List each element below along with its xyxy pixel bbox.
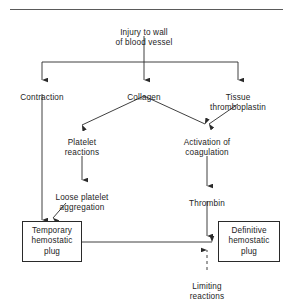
node-injury-label: Injury to wall of blood vessel (116, 28, 173, 47)
node-injury: Injury to wall of blood vessel (89, 18, 199, 48)
node-tissue-thromboplastin-label: Tissue thromboplastin (210, 93, 266, 112)
node-platelet-reactions: Platelet reactions (44, 128, 120, 158)
node-thrombin: Thrombin (169, 189, 245, 209)
node-limiting-reactions-label: Limiting reactions (190, 282, 225, 301)
node-activation-of-coagulation: Activation of coagulation (164, 128, 250, 158)
node-thrombin-label: Thrombin (189, 199, 225, 208)
node-activation-of-coagulation-label: Activation of coagulation (184, 138, 231, 157)
node-tissue-thromboplastin: Tissue thromboplastin (190, 83, 286, 113)
node-collagen: Collagen (109, 83, 179, 103)
node-platelet-reactions-label: Platelet reactions (65, 138, 100, 157)
node-definitive-hemostatic-plug-label: Definitive hemostatic plug (228, 226, 269, 258)
node-contraction: Contraction (2, 83, 82, 103)
node-loose-platelet-aggregation-label: Loose platelet aggregation (55, 193, 108, 212)
node-limiting-reactions: Limiting reactions (167, 272, 247, 302)
node-loose-platelet-aggregation: Loose platelet aggregation (36, 183, 128, 213)
node-collagen-label: Collagen (127, 93, 161, 102)
node-temporary-hemostatic-plug-label: Temporary hemostatic plug (31, 226, 72, 258)
node-temporary-hemostatic-plug: Temporary hemostatic plug (22, 221, 82, 262)
node-contraction-label: Contraction (20, 93, 64, 102)
node-definitive-hemostatic-plug: Definitive hemostatic plug (218, 221, 280, 262)
